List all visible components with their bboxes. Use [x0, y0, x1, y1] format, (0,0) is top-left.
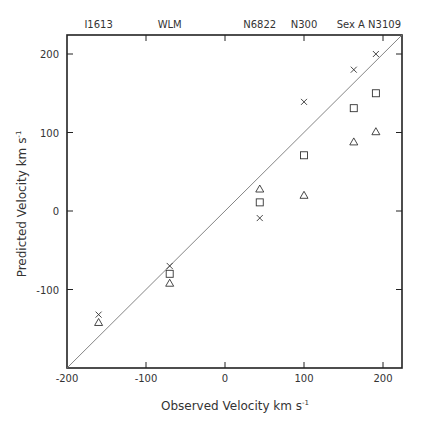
data-points [95, 51, 380, 325]
x-marker [167, 263, 173, 269]
svg-text:Predicted Velocity km s-1: Predicted Velocity km s-1 [15, 131, 29, 278]
y-tick-label: 200 [40, 49, 59, 60]
x-marker [301, 99, 307, 105]
x-axis-title: Observed Velocity km s-1 [161, 399, 309, 413]
scatter-chart: -200-1000100200-1000100200 I1613WLMN6822… [0, 0, 422, 427]
y-axis-title: Predicted Velocity km s-1 [15, 131, 29, 278]
y-axis-title-text: Predicted Velocity km s [15, 138, 29, 278]
x-tick-label: 0 [222, 373, 228, 384]
x-axis-title-superscript: -1 [302, 399, 309, 407]
triangle-marker [300, 191, 308, 198]
y-axis-title-superscript: -1 [15, 131, 23, 138]
x-marker [373, 51, 379, 57]
x-tick-label: -200 [56, 373, 79, 384]
galaxy-labels: I1613WLMN6822N300Sex A N3109 [84, 19, 401, 30]
plot-frame [67, 35, 402, 368]
galaxy-label: WLM [158, 19, 182, 30]
x-marker [96, 312, 102, 318]
axis-ticks: -200-1000100200-1000100200 [36, 35, 402, 384]
triangle-marker [372, 128, 380, 135]
galaxy-label: Sex A N3109 [337, 19, 401, 30]
triangle-marker [256, 185, 264, 192]
square-marker [350, 105, 357, 112]
square-marker [166, 270, 173, 277]
square-marker [372, 90, 379, 97]
y-tick-label: 0 [53, 206, 59, 217]
x-marker [351, 67, 357, 73]
triangle-marker [95, 318, 103, 325]
y-tick-label: 100 [40, 128, 59, 139]
x-tick-label: 100 [294, 373, 313, 384]
x-axis-title-text: Observed Velocity km s [161, 399, 302, 413]
x-tick-label: -100 [135, 373, 158, 384]
identity-line [67, 35, 402, 368]
galaxy-label: N6822 [243, 19, 276, 30]
galaxy-label: N300 [291, 19, 318, 30]
x-tick-label: 200 [373, 373, 392, 384]
galaxy-label: I1613 [84, 19, 112, 30]
x-marker [257, 215, 263, 221]
square-marker [301, 152, 308, 159]
square-marker [256, 199, 263, 206]
triangle-marker [350, 138, 358, 145]
triangle-marker [166, 279, 174, 286]
svg-text:Observed Velocity km s-1: Observed Velocity km s-1 [161, 399, 309, 413]
y-tick-label: -100 [36, 285, 59, 296]
